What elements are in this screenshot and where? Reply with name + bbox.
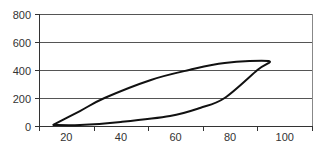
gridlines <box>39 15 312 99</box>
y-tick-label: 0 <box>25 121 31 133</box>
x-tick-label: 20 <box>60 131 72 143</box>
y-axis-labels: 0200400600800 <box>13 9 31 133</box>
y-tick-label: 800 <box>13 9 31 21</box>
y-tick-label: 200 <box>13 93 31 105</box>
y-tick-label: 600 <box>13 37 31 49</box>
y-tick-label: 400 <box>13 65 31 77</box>
x-tick-label: 40 <box>115 131 127 143</box>
x-tick-label: 60 <box>169 131 181 143</box>
x-tick-label: 100 <box>276 131 294 143</box>
x-tick-label: 80 <box>224 131 236 143</box>
hysteresis-chart: 0200400600800 20406080100 <box>0 0 323 147</box>
x-axis-labels: 20406080100 <box>60 131 294 143</box>
